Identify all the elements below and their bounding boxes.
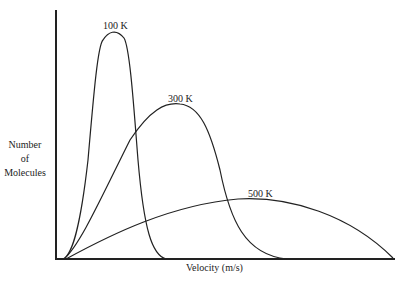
label-500k: 500 K: [248, 188, 273, 199]
y-axis-label: Number of Molecules: [0, 138, 50, 180]
x-axis-label: Velocity (m/s): [186, 262, 243, 273]
chart-plot: [0, 0, 401, 283]
curve-300k: [64, 104, 287, 259]
y-label-line1: Number: [0, 138, 50, 152]
y-label-line2: of: [0, 152, 50, 166]
label-300k: 300 K: [168, 93, 193, 104]
curve-100k: [63, 32, 166, 259]
label-100k: 100 K: [103, 20, 128, 31]
y-label-line3: Molecules: [0, 166, 50, 180]
